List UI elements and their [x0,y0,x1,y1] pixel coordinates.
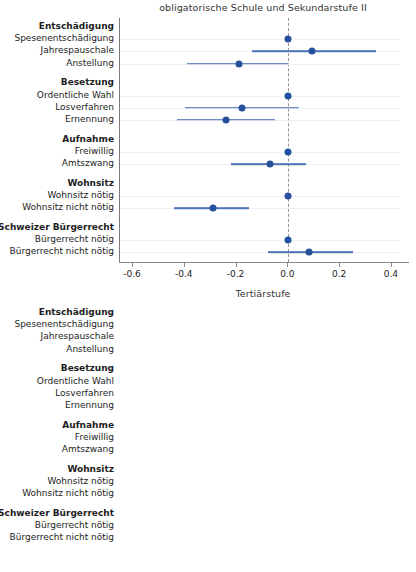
panel-title: Tertiärstufe [118,288,408,299]
group-label: Besetzung [61,78,114,87]
row-label: Jahrespauschale [41,46,114,55]
row-label: Bürgerrecht nötig [35,521,114,530]
group-label: Wohnsitz [67,179,114,188]
row-label: Bürgerrecht nötig [35,235,114,244]
group-label: Entschädigung [39,308,114,317]
panel-obligatorische-schule: obligatorische Schule und Sekundarstufe … [0,0,416,286]
gridline [120,208,400,209]
gridline [120,252,400,253]
row-label: Anstellung [66,345,114,354]
panel-title: obligatorische Schule und Sekundarstufe … [118,2,408,13]
group-label: Entschädigung [39,22,114,31]
group-label: Schweizer Bürgerrecht [0,509,114,518]
forest-plot-figure: obligatorische Schule und Sekundarstufe … [0,0,416,572]
panel-tertiaerstufe: Tertiärstufe EntschädigungSpesenentschäd… [0,286,416,572]
plot-area [119,18,409,262]
estimate-point [285,36,292,43]
row-label-column: EntschädigungSpesenentschädigungJahrespa… [0,0,116,286]
row-label: Freiwillig [75,147,114,156]
row-label-column: EntschädigungSpesenentschädigungJahrespa… [0,286,116,572]
group-label: Besetzung [61,364,114,373]
row-label: Amtszwang [62,445,114,454]
row-label: Ernennung [65,115,114,124]
row-label: Ordentliche Wahl [37,377,114,386]
estimate-point [238,104,245,111]
group-label: Schweizer Bürgerrecht [0,223,114,232]
x-tick-label: -0.2 [227,269,245,279]
estimate-point [285,237,292,244]
row-label: Wohnsitz nötig [47,477,114,486]
row-label: Wohnsitz nötig [47,191,114,200]
row-label: Wohnsitz nicht nötig [22,203,114,212]
row-label: Spesenentschädigung [14,34,114,43]
group-label: Aufnahme [62,135,114,144]
row-label: Bürgerrecht nicht nötig [10,533,115,542]
estimate-point [285,148,292,155]
row-label: Losverfahren [55,389,114,398]
x-tick-label: 0.2 [332,269,346,279]
row-label: Freiwillig [75,433,114,442]
row-label: Jahrespauschale [41,332,114,341]
estimate-point [223,116,230,123]
row-label: Anstellung [66,59,114,68]
x-tick-label: 0.0 [280,269,294,279]
x-tick [132,262,133,267]
estimate-point [308,48,315,55]
row-label: Wohnsitz nicht nötig [22,489,114,498]
gridline [120,152,400,153]
x-tick [184,262,185,267]
x-tick [339,262,340,267]
estimate-point [285,92,292,99]
x-tick-label: 0.4 [384,269,398,279]
estimate-point [285,192,292,199]
x-tick [236,262,237,267]
gridline [120,96,400,97]
x-tick [391,262,392,267]
zero-reference-line [288,18,289,262]
row-label: Bürgerrecht nicht nötig [10,247,115,256]
estimate-point [267,161,274,168]
gridline [120,240,400,241]
row-label: Ernennung [65,401,114,410]
gridline [120,196,400,197]
x-tick-label: -0.4 [175,269,193,279]
gridline [120,39,400,40]
group-label: Aufnahme [62,421,114,430]
row-label: Spesenentschädigung [14,320,114,329]
group-label: Wohnsitz [67,465,114,474]
estimate-point [210,205,217,212]
x-tick [287,262,288,267]
row-label: Amtszwang [62,159,114,168]
x-tick-label: -0.6 [123,269,141,279]
row-label: Losverfahren [55,103,114,112]
row-label: Ordentliche Wahl [37,91,114,100]
x-axis: -0.6-0.4-0.20.00.20.4 [119,262,409,263]
estimate-point [306,249,313,256]
estimate-point [236,60,243,67]
